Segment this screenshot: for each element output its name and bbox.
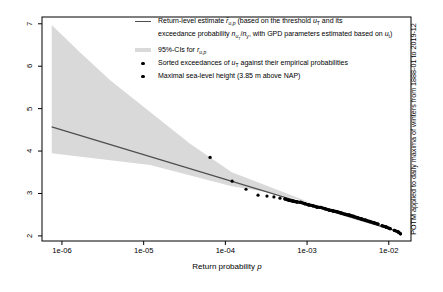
exceedance-point [368, 220, 371, 223]
exceedance-point [348, 214, 351, 217]
exceedance-point [385, 225, 388, 228]
legend-item-label: 95%-CIs for ru,p [158, 45, 206, 58]
exceedance-point [340, 211, 343, 214]
exceedance-point [265, 194, 268, 197]
x-tick-label: 1e-05 [134, 246, 153, 255]
exceedance-point [327, 208, 330, 211]
exceedance-point [360, 217, 363, 220]
exceedance-point [278, 197, 281, 200]
y-tick-label: 6 [25, 64, 34, 68]
x-tick-label: 1e-06 [52, 246, 71, 255]
exceedance-point [315, 205, 318, 208]
exceedance-point [244, 188, 247, 191]
x-axis-label: Return probability p [192, 262, 261, 271]
exceedance-point [376, 222, 379, 225]
exceedance-point [291, 200, 294, 203]
exceedance-point [399, 232, 402, 235]
line-swatch-icon [132, 16, 154, 27]
legend-item-return-level-line: Return-level estimate r̂u,p (based on th… [132, 16, 392, 45]
exceedance-point [231, 180, 234, 183]
legend: Return-level estimate r̂u,p (based on th… [132, 16, 392, 82]
legend-item-label: Return-level estimate r̂u,p (based on th… [158, 16, 392, 45]
exceedance-point [311, 204, 314, 207]
exceedance-point [307, 203, 310, 206]
exceedance-point [283, 197, 286, 200]
legend-item-label: Maximal sea-level height (3.85 m above N… [158, 71, 300, 82]
y-tick-label: 5 [25, 107, 34, 111]
exceedance-point [389, 227, 392, 230]
right-axis-label: POTM applied to daily maxima of winters … [409, 23, 418, 235]
exceedance-point [303, 202, 306, 205]
legend-item-ci-band: 95%-CIs for ru,p [132, 45, 392, 58]
band-swatch-icon [132, 45, 154, 56]
y-tick-label: 7 [25, 22, 34, 26]
legend-item-sorted-exceedances: Sorted exceedances of uT against their e… [132, 58, 392, 71]
point-swatch-icon [132, 71, 154, 82]
exceedance-point [331, 209, 334, 212]
x-tick-label: 1e-02 [379, 246, 398, 255]
y-tick-label: 3 [25, 191, 34, 195]
exceedance-point [287, 199, 290, 202]
exceedance-point [372, 221, 375, 224]
exceedance-point [380, 224, 383, 227]
legend-item-max-sea-level: Maximal sea-level height (3.85 m above N… [132, 71, 392, 82]
exceedance-point [364, 219, 367, 222]
exceedance-point [295, 200, 298, 203]
exceedance-point [272, 195, 275, 198]
x-tick-label: 1e-04 [216, 246, 235, 255]
y-tick-label: 4 [25, 149, 34, 153]
max-sea-level-point [208, 156, 211, 159]
exceedance-point [393, 229, 396, 232]
exceedance-point [344, 213, 347, 216]
exceedance-point [319, 206, 322, 209]
legend-item-label: Sorted exceedances of uT against their e… [158, 58, 348, 71]
return-level-plot-figure: 1e-061e-051e-041e-031e-02 234567 Return … [0, 0, 443, 292]
exceedance-point [256, 194, 259, 197]
exceedance-point [356, 216, 359, 219]
exceedance-point [299, 201, 302, 204]
exceedance-point [323, 207, 326, 210]
point-swatch-icon [132, 58, 154, 69]
x-tick-label: 1e-03 [297, 246, 316, 255]
y-tick-label: 2 [25, 234, 34, 238]
exceedance-point [336, 210, 339, 213]
exceedance-point [352, 215, 355, 218]
